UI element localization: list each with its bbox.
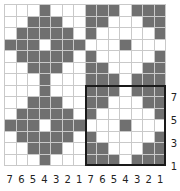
grid-cell	[143, 51, 154, 62]
grid-cell	[74, 120, 85, 131]
grid-cell	[143, 74, 154, 85]
grid-cell	[109, 109, 120, 120]
grid-cell	[97, 120, 108, 131]
grid-cell	[74, 5, 85, 16]
grid-cell	[97, 132, 108, 143]
grid-cell	[143, 28, 154, 39]
grid-cell	[155, 51, 166, 62]
column-label: 5	[108, 174, 120, 186]
grid-cell	[17, 132, 28, 143]
grid-cell	[51, 120, 62, 131]
grid-cell	[143, 143, 154, 154]
grid-cell	[155, 143, 166, 154]
grid-cell	[28, 63, 39, 74]
grid-cell	[28, 143, 39, 154]
grid-cell	[28, 155, 39, 166]
grid-cell	[120, 51, 131, 62]
row-label: 7	[169, 92, 179, 104]
grid-cell	[143, 17, 154, 28]
grid-cell	[86, 155, 97, 166]
grid-cell	[51, 86, 62, 97]
grid-cell	[109, 74, 120, 85]
grid-cell	[5, 155, 16, 166]
grid-cell	[51, 109, 62, 120]
grid-cell	[28, 5, 39, 16]
grid-cell	[17, 155, 28, 166]
grid-cell	[155, 86, 166, 97]
grid-cell	[5, 5, 16, 16]
grid-cell	[143, 109, 154, 120]
grid-cell	[28, 74, 39, 85]
grid-cell	[109, 63, 120, 74]
grid-cell	[155, 40, 166, 51]
grid-cell	[132, 86, 143, 97]
grid-cell	[28, 86, 39, 97]
grid-cell	[74, 155, 85, 166]
column-label: 4	[120, 174, 132, 186]
grid-cell	[132, 17, 143, 28]
grid-cell	[86, 28, 97, 39]
grid-cell	[120, 143, 131, 154]
grid-cell	[74, 86, 85, 97]
grid-cell	[40, 97, 51, 108]
grid-cell	[132, 74, 143, 85]
grid-cell	[132, 120, 143, 131]
grid-cell	[40, 17, 51, 28]
grid-cell	[63, 51, 74, 62]
grid-cell	[5, 28, 16, 39]
grid-cell	[40, 5, 51, 16]
grid-cell	[120, 17, 131, 28]
column-label: 3	[131, 174, 143, 186]
grid-cell	[40, 132, 51, 143]
grid-cell	[40, 109, 51, 120]
grid-cell	[74, 17, 85, 28]
grid-cell	[132, 63, 143, 74]
grid-cell	[143, 155, 154, 166]
grid-cell	[40, 28, 51, 39]
grid-cell	[109, 155, 120, 166]
row-label: 3	[169, 138, 179, 150]
grid-cell	[97, 5, 108, 16]
grid-cell	[63, 63, 74, 74]
grid-cell	[51, 74, 62, 85]
grid-cell	[5, 120, 16, 131]
grid-cell	[63, 97, 74, 108]
grid-cell	[155, 74, 166, 85]
grid-cell	[109, 86, 120, 97]
grid-cell	[40, 51, 51, 62]
grid-cell	[40, 155, 51, 166]
grid-cell	[17, 109, 28, 120]
grid-cell	[51, 17, 62, 28]
grid-cell	[109, 5, 120, 16]
grid-cell	[120, 28, 131, 39]
grid-cell	[86, 17, 97, 28]
grid-cell	[143, 86, 154, 97]
grid-cell	[132, 132, 143, 143]
grid-cell	[97, 17, 108, 28]
column-label: 4	[39, 174, 51, 186]
grid-cell	[132, 155, 143, 166]
grid-cell	[155, 63, 166, 74]
grid-cell	[74, 132, 85, 143]
grid-cell	[97, 40, 108, 51]
grid-cell	[5, 17, 16, 28]
row-label: 1	[169, 161, 179, 173]
grid-cell	[120, 86, 131, 97]
grid-cell	[5, 109, 16, 120]
grid-cell	[28, 97, 39, 108]
row-label: 5	[169, 115, 179, 127]
column-label: 1	[73, 174, 85, 186]
grid-cell	[132, 28, 143, 39]
grid-cell	[51, 132, 62, 143]
grid-cell	[17, 63, 28, 74]
grid-cell	[63, 120, 74, 131]
grid-cell	[51, 28, 62, 39]
pattern-grid	[4, 4, 166, 166]
grid-cell	[63, 74, 74, 85]
column-label: 5	[27, 174, 39, 186]
grid-cell	[51, 40, 62, 51]
grid-cell	[17, 28, 28, 39]
grid-cell	[40, 143, 51, 154]
grid-cell	[5, 40, 16, 51]
grid-cell	[120, 109, 131, 120]
